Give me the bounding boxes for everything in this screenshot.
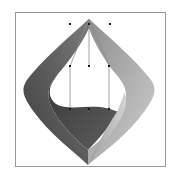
control-point[interactable] [108, 65, 110, 67]
control-point[interactable] [88, 108, 90, 110]
control-point[interactable] [69, 23, 71, 25]
control-point[interactable] [108, 108, 110, 110]
control-point[interactable] [109, 23, 111, 25]
control-point[interactable] [88, 23, 90, 25]
control-point[interactable] [69, 108, 71, 110]
control-point[interactable] [69, 65, 71, 67]
control-point[interactable] [88, 65, 90, 67]
surface-diagram [0, 0, 178, 181]
